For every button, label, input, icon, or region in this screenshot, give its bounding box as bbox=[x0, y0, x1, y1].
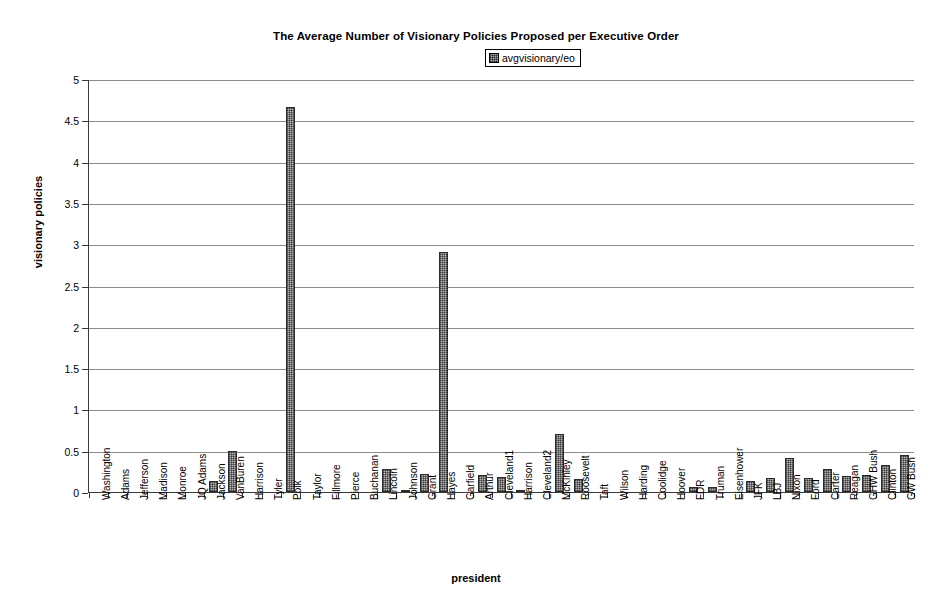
x-axis-tick-label: Truman bbox=[716, 466, 726, 500]
x-axis-tick-label: Clinton bbox=[888, 469, 898, 500]
y-axis-tick-mark bbox=[82, 410, 88, 411]
x-axis-tick-label: Jefferson bbox=[140, 459, 150, 500]
x-axis-tick-label: Reagan bbox=[850, 465, 860, 500]
y-axis-tick-mark bbox=[82, 163, 88, 164]
y-axis-tick-mark bbox=[82, 287, 88, 288]
y-axis-tick-mark bbox=[82, 328, 88, 329]
x-axis-tick-label: Hayes bbox=[447, 472, 457, 500]
y-axis-tick-label: 1.5 bbox=[39, 364, 79, 374]
x-axis-tick-label: Washington bbox=[102, 448, 112, 500]
y-axis-tick-mark bbox=[82, 80, 88, 81]
y-axis-label: visionary policies bbox=[32, 122, 44, 322]
x-axis-tick-label: Roosevelt bbox=[581, 456, 591, 500]
x-axis-tick-label: Madison bbox=[159, 462, 169, 500]
x-axis-tick-label: Taylor bbox=[313, 473, 323, 500]
x-axis-tick-label: Eisenhower bbox=[735, 448, 745, 500]
chart-legend: avgvisionary/eo bbox=[485, 49, 581, 67]
gridline bbox=[89, 328, 914, 329]
gridline bbox=[89, 369, 914, 370]
x-axis-label: president bbox=[0, 572, 952, 584]
y-axis-tick-label: 0.5 bbox=[39, 447, 79, 457]
gridline bbox=[89, 80, 914, 81]
x-axis-tick-label: JQ Adams bbox=[198, 454, 208, 500]
y-axis-tick-label: 2.5 bbox=[39, 282, 79, 292]
x-axis-tick-label: Pierce bbox=[351, 472, 361, 500]
x-axis-tick-label: Adams bbox=[121, 469, 131, 500]
x-axis-tick-label: Grant bbox=[428, 475, 438, 500]
x-axis-tick-label: Wilson bbox=[620, 470, 630, 500]
y-axis-tick-mark bbox=[82, 369, 88, 370]
x-axis-tick-label: Harrison bbox=[255, 462, 265, 500]
y-axis-tick-label: 5 bbox=[39, 75, 79, 85]
x-axis-tick-label: Nixon bbox=[792, 474, 802, 500]
x-axis-tick-label: Hoover bbox=[677, 468, 687, 500]
plot-area bbox=[88, 80, 913, 493]
x-axis-tick-label: Carter bbox=[831, 472, 841, 500]
bar-chart: The Average Number of Visionary Policies… bbox=[0, 0, 952, 614]
x-axis-tick-label: Polk bbox=[293, 481, 303, 500]
gridline bbox=[89, 121, 914, 122]
x-axis-tick-label: GW Bush bbox=[907, 457, 917, 500]
bar-hayes bbox=[439, 252, 448, 492]
legend-swatch-icon bbox=[489, 53, 499, 63]
y-axis-tick-mark bbox=[82, 493, 88, 494]
x-axis-tick-label: Jackson bbox=[217, 463, 227, 500]
x-axis-tick-label: Garfield bbox=[466, 465, 476, 500]
gridline bbox=[89, 287, 914, 288]
y-axis-tick-label: 2 bbox=[39, 323, 79, 333]
bar-polk bbox=[286, 107, 295, 492]
x-axis-tick-label: Cleveland2 bbox=[543, 450, 553, 500]
x-axis-tick-label: Johnson bbox=[409, 462, 419, 500]
y-axis-tick-label: 0 bbox=[39, 488, 79, 498]
gridline bbox=[89, 163, 914, 164]
y-axis-tick-mark bbox=[82, 121, 88, 122]
y-axis-tick-mark bbox=[82, 245, 88, 246]
legend-label: avgvisionary/eo bbox=[502, 52, 575, 64]
x-axis-tick-label: Monroe bbox=[178, 466, 188, 500]
x-axis-tick-label: Cleveland1 bbox=[505, 450, 515, 500]
x-axis-tick-label: GHW Bush bbox=[869, 450, 879, 500]
x-axis-tick-label: Ford bbox=[811, 479, 821, 500]
x-axis-tick-label: Lincoln bbox=[389, 468, 399, 500]
y-axis-tick-label: 4.5 bbox=[39, 116, 79, 126]
x-axis-tick-label: VanBuren bbox=[236, 456, 246, 500]
x-axis-tick-label: Harding bbox=[639, 465, 649, 500]
chart-title: The Average Number of Visionary Policies… bbox=[0, 30, 952, 42]
gridline bbox=[89, 452, 914, 453]
y-axis-tick-label: 3.5 bbox=[39, 199, 79, 209]
x-axis-tick-label: FDR bbox=[696, 479, 706, 500]
x-axis-tick-mark bbox=[89, 493, 90, 498]
x-axis-tick-label: McKinley bbox=[562, 459, 572, 500]
y-axis-tick-label: 4 bbox=[39, 158, 79, 168]
y-axis-tick-label: 1 bbox=[39, 405, 79, 415]
gridline bbox=[89, 245, 914, 246]
x-axis-tick-label: Coolidge bbox=[658, 461, 668, 500]
x-axis-tick-label: JFK bbox=[754, 482, 764, 500]
y-axis-tick-mark bbox=[82, 204, 88, 205]
x-axis-tick-label: LBJ bbox=[773, 483, 783, 500]
x-axis-tick-label: Buchanan bbox=[370, 455, 380, 500]
x-axis-tick-label: Taft bbox=[600, 484, 610, 500]
gridline bbox=[89, 410, 914, 411]
x-axis-tick-label: Fillmore bbox=[332, 464, 342, 500]
x-axis-tick-label: Arthur bbox=[485, 473, 495, 500]
y-axis-tick-mark bbox=[82, 452, 88, 453]
x-axis-tick-label: Harrison bbox=[524, 462, 534, 500]
x-axis-tick-label: Tyler bbox=[274, 478, 284, 500]
y-axis-tick-label: 3 bbox=[39, 240, 79, 250]
gridline bbox=[89, 204, 914, 205]
